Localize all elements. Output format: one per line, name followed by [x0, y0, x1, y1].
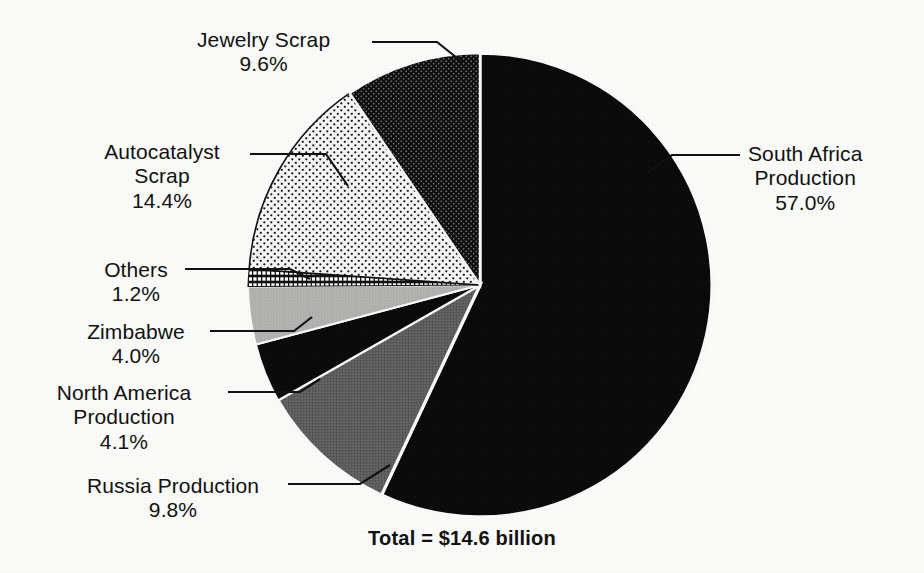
slice-label-russia-production: Russia Production 9.8%: [60, 474, 286, 523]
pie-chart: Jewelry Scrap 9.6% Autocatalyst Scrap 14…: [0, 0, 924, 573]
slice-label-russia-percent: 9.8%: [60, 498, 286, 522]
chart-total-caption: Total = $14.6 billion: [0, 527, 924, 550]
slice-label-zimbabwe: Zimbabwe 4.0%: [56, 320, 216, 369]
slice-label-autocatalyst-scrap: Autocatalyst Scrap 14.4%: [66, 140, 258, 213]
slice-label-south-africa-name-line1: South Africa: [748, 142, 862, 165]
pie-slices: [248, 53, 712, 517]
slice-label-zimbabwe-percent: 4.0%: [56, 344, 216, 368]
slice-label-south-africa-production: South Africa Production 57.0%: [748, 142, 862, 215]
slice-label-south-africa-percent: 57.0%: [748, 191, 862, 215]
slice-label-autocatalyst-scrap-percent: 14.4%: [66, 189, 258, 213]
slice-label-others-name: Others: [104, 258, 168, 281]
slice-label-north-america-percent: 4.1%: [18, 430, 230, 454]
slice-label-others: Others 1.2%: [77, 258, 195, 307]
slice-label-south-africa-name-line2: Production: [748, 166, 862, 190]
slice-label-jewelry-scrap: Jewelry Scrap 9.6%: [197, 28, 330, 77]
slice-label-north-america-production: North America Production 4.1%: [18, 381, 230, 454]
slice-label-jewelry-scrap-percent: 9.6%: [197, 52, 330, 76]
slice-label-others-percent: 1.2%: [77, 282, 195, 306]
slice-label-autocatalyst-scrap-name-line2: Scrap: [66, 164, 258, 188]
slice-label-zimbabwe-name: Zimbabwe: [87, 320, 185, 343]
slice-label-autocatalyst-scrap-name-line1: Autocatalyst: [104, 140, 220, 163]
slice-label-north-america-name-line1: North America: [57, 381, 191, 404]
slice-label-north-america-name-line2: Production: [18, 405, 230, 429]
slice-label-russia-name: Russia Production: [87, 474, 259, 497]
slice-label-jewelry-scrap-name: Jewelry Scrap: [197, 28, 330, 51]
